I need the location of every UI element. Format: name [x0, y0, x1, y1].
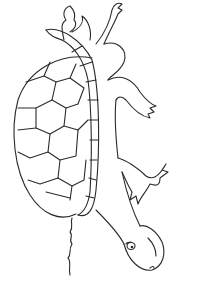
shell-rim-top [46, 30, 62, 40]
turtle-coloring-page [0, 0, 200, 281]
body-middle [115, 100, 118, 158]
eye [127, 243, 135, 250]
grass-tuft [68, 218, 72, 275]
turtle-illustration [0, 0, 200, 281]
pupil [131, 246, 134, 249]
head [124, 226, 164, 271]
body-side [104, 43, 125, 80]
shell-rim-inner [62, 40, 91, 215]
tail-leg [72, 3, 122, 44]
nostril [150, 267, 154, 269]
shell-scutes [18, 62, 88, 200]
front-leg-lower [118, 158, 168, 204]
jaw-line [148, 238, 156, 256]
neck [96, 172, 140, 244]
